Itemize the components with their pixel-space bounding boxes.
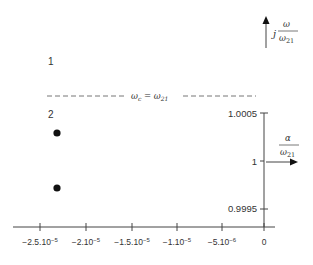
y-axis-label-den: ω21: [279, 33, 294, 45]
xtick-label-4: −5.10−6: [208, 237, 237, 247]
x-axis-label-num: α: [285, 133, 291, 143]
ytick-label-bot: 0.9995: [228, 203, 257, 214]
xtick-label-2: −1.5.10−5: [114, 237, 150, 247]
y-axis-label-num: ω: [283, 19, 290, 29]
pole-point-upper: [53, 129, 60, 136]
y-axis-arrowhead-icon: [263, 16, 270, 24]
critical-line-label: ωc = ω21: [131, 91, 168, 102]
xtick-label-1: −2.10−5: [72, 237, 101, 247]
pole-plot: 1 2 ωc = ω21 1.0005 1 0.9995 j ω ω21 α ω…: [0, 0, 313, 265]
x-tick-labels: −2.5.10−5 −2.10−5 −1.5.10−5 −1.10−5 −5.1…: [22, 237, 266, 247]
region-label-1: 1: [48, 56, 54, 67]
x-axis-arrowhead-icon: [290, 159, 298, 166]
ytick-label-mid: 1: [252, 156, 257, 167]
pole-point-lower: [53, 184, 60, 191]
x-axis-label-den: ω21: [280, 147, 295, 159]
region-label-2: 2: [48, 109, 54, 120]
ytick-label-top: 1.0005: [228, 108, 257, 119]
xtick-label-0: −2.5.10−5: [22, 237, 58, 247]
xtick-label-3: −1.10−5: [163, 237, 192, 247]
y-axis-label-j: j: [271, 28, 276, 39]
xtick-label-5: 0: [262, 237, 267, 247]
